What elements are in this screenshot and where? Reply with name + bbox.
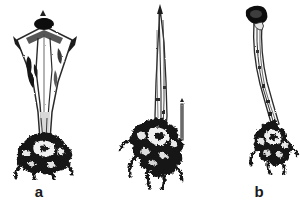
panel-label-a: a <box>29 184 49 199</box>
specimen-drawing-c <box>232 0 300 175</box>
specimen-drawing-b <box>108 0 204 190</box>
specimen-drawing-a <box>0 0 100 180</box>
figure-root: a <box>0 0 300 212</box>
specimen-panel-a: a <box>0 0 100 212</box>
specimen-panel-c: c <box>232 0 300 212</box>
specimen-panel-b: b <box>108 0 204 212</box>
